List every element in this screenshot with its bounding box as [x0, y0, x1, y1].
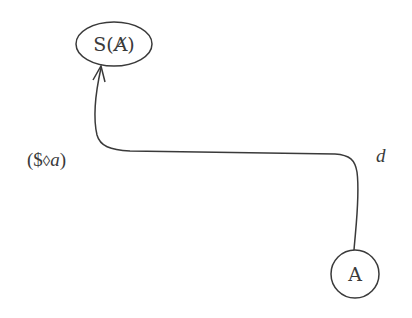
node-label: S(A̸) — [93, 33, 135, 55]
node-label: A — [347, 263, 362, 285]
node-a: A — [331, 250, 379, 298]
edge-path — [95, 68, 358, 250]
s-barred-symbol: $ — [33, 149, 43, 170]
graph-diagram: S(A̸) A ($◊a) d — [0, 0, 412, 318]
node-s-barred-a: S(A̸) — [76, 22, 152, 66]
edge-label-right: d — [376, 145, 386, 166]
edge-label-left: ($◊a) — [27, 149, 66, 171]
